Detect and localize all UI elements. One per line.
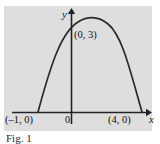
figure-caption: Fig. 1	[6, 133, 32, 144]
point-label-root-left: (–1, 0)	[5, 115, 33, 126]
point-label-root-right: (4, 0)	[108, 115, 131, 126]
figure-container: y x (0, 3) 0 (–1, 0) (4, 0) Fig. 1	[0, 0, 160, 144]
origin-label: 0	[65, 115, 70, 125]
arrow-up-icon	[68, 8, 75, 14]
x-axis-label: x	[149, 114, 154, 125]
point-label-y-intercept: (0, 3)	[74, 30, 97, 41]
y-axis-label: y	[62, 9, 67, 20]
